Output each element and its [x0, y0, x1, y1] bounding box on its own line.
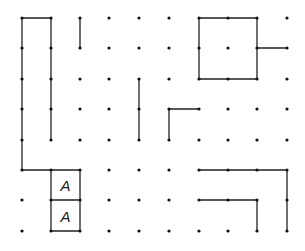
grid-dot	[255, 138, 258, 141]
grid-dot	[226, 107, 229, 110]
grid-dot	[226, 46, 229, 49]
grid-dot	[285, 107, 288, 110]
grid-dot	[107, 198, 110, 201]
grid-dot	[285, 77, 288, 80]
grid-dot	[78, 168, 81, 171]
grid-dot	[285, 168, 288, 171]
grid-dot	[137, 77, 140, 80]
grid-dot	[78, 77, 81, 80]
dot-grid-diagram: A A	[0, 0, 305, 251]
grid-dot	[107, 77, 110, 80]
grid-dot	[20, 46, 23, 49]
grid-dot	[78, 107, 81, 110]
grid-dot	[49, 229, 52, 232]
grid-dot	[137, 138, 140, 141]
grid-dot	[226, 168, 229, 171]
grid-dot	[226, 229, 229, 232]
grid-dot	[20, 77, 23, 80]
grid-dot	[167, 16, 170, 19]
grid-dot	[255, 107, 258, 110]
grid-dot	[20, 198, 23, 201]
grid-dot	[255, 77, 258, 80]
grid-dot	[20, 229, 23, 232]
grid-dot	[255, 16, 258, 19]
grid-dot	[49, 16, 52, 19]
grid-dot	[226, 138, 229, 141]
grid-dot	[49, 168, 52, 171]
grid-dot	[107, 46, 110, 49]
grid-dot	[137, 16, 140, 19]
grid-dot	[137, 107, 140, 110]
grid-dot	[49, 138, 52, 141]
grid-dot	[167, 229, 170, 232]
grid-dot	[137, 229, 140, 232]
grid-dot	[226, 77, 229, 80]
grid-dot	[167, 168, 170, 171]
cell-label-a-lower: A	[60, 207, 70, 224]
grid-dot	[167, 46, 170, 49]
grid-dot	[20, 138, 23, 141]
grid-dot	[49, 46, 52, 49]
grid-dot	[107, 16, 110, 19]
grid-dot	[20, 107, 23, 110]
grid-dot	[167, 138, 170, 141]
grid-dot	[285, 16, 288, 19]
grid-dot	[20, 16, 23, 19]
grid-dot	[107, 168, 110, 171]
grid-dot	[107, 229, 110, 232]
grid-dot	[49, 77, 52, 80]
grid-dot	[255, 168, 258, 171]
grid-dot	[255, 46, 258, 49]
grid-dot	[285, 198, 288, 201]
grid-dot	[137, 198, 140, 201]
grid-lines-and-dots	[0, 0, 305, 251]
grid-dot	[255, 229, 258, 232]
grid-dot	[167, 198, 170, 201]
grid-dot	[285, 138, 288, 141]
grid-dot	[107, 138, 110, 141]
grid-dot	[78, 198, 81, 201]
grid-dot	[197, 138, 200, 141]
grid-dot	[107, 107, 110, 110]
grid-dot	[137, 46, 140, 49]
grid-dot	[197, 107, 200, 110]
grid-dot	[167, 77, 170, 80]
grid-dot	[285, 229, 288, 232]
grid-dot	[167, 107, 170, 110]
grid-dot	[197, 168, 200, 171]
grid-dot	[197, 16, 200, 19]
grid-dot	[197, 198, 200, 201]
grid-dot	[78, 16, 81, 19]
grid-dot	[20, 168, 23, 171]
grid-dot	[137, 168, 140, 171]
grid-dot	[197, 77, 200, 80]
grid-dot	[226, 16, 229, 19]
grid-dot	[78, 46, 81, 49]
grid-dot	[255, 198, 258, 201]
grid-dot	[197, 229, 200, 232]
grid-dot	[78, 138, 81, 141]
grid-dot	[49, 198, 52, 201]
grid-dot	[78, 229, 81, 232]
grid-dot	[49, 107, 52, 110]
grid-dot	[226, 198, 229, 201]
cell-label-a-upper: A	[60, 177, 70, 194]
grid-dot	[285, 46, 288, 49]
grid-dot	[197, 46, 200, 49]
